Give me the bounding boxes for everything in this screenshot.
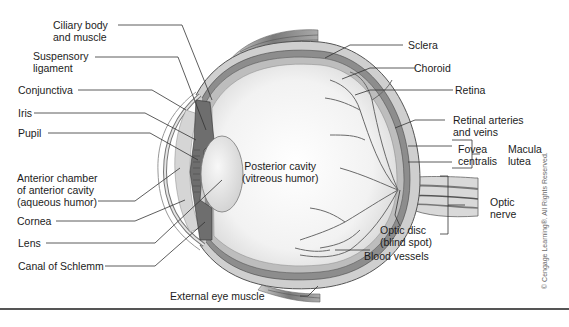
label-line: and veins xyxy=(453,126,524,138)
label-posterior-cavity: Posterior cavity (vitreous humor) xyxy=(242,160,318,184)
label-line: and muscle xyxy=(53,31,108,43)
label-line: Iris xyxy=(18,107,32,119)
label-retina: Retina xyxy=(455,84,485,96)
label-line: Lens xyxy=(18,237,41,249)
label-external-eye-muscle: External eye muscle xyxy=(170,290,265,302)
label-line: Conjunctiva xyxy=(18,84,73,96)
label-line: Fovea xyxy=(458,143,497,155)
copyright-notice: © Cengage Learning®. All Rights Reserved… xyxy=(541,152,548,289)
label-line: Sclera xyxy=(408,39,438,51)
label-line: Choroid xyxy=(414,62,451,74)
label-line: of anterior cavity xyxy=(17,184,98,196)
label-line: lutea xyxy=(508,155,542,167)
label-line: Blood vessels xyxy=(364,250,429,262)
label-cornea: Cornea xyxy=(17,215,51,227)
label-canal-of-schlemm: Canal of Schlemm xyxy=(18,260,104,272)
label-line: ligament xyxy=(33,62,88,74)
label-lens: Lens xyxy=(18,237,41,249)
label-anterior-chamber: Anterior chamber of anterior cavity (aqu… xyxy=(17,172,98,208)
label-choroid: Choroid xyxy=(414,62,451,74)
label-line: nerve xyxy=(490,208,516,220)
label-sclera: Sclera xyxy=(408,39,438,51)
label-line: Optic xyxy=(490,196,516,208)
label-line: Retinal arteries xyxy=(453,114,524,126)
label-ciliary-body: Ciliary body and muscle xyxy=(53,19,108,43)
bottom-divider xyxy=(0,308,569,310)
label-line: External eye muscle xyxy=(170,290,265,302)
label-line: Macula xyxy=(508,143,542,155)
label-line: (vitreous humor) xyxy=(242,172,318,184)
label-line: Cornea xyxy=(17,215,51,227)
label-optic-nerve: Optic nerve xyxy=(490,196,516,220)
label-conjunctiva: Conjunctiva xyxy=(18,84,73,96)
lens-shape xyxy=(201,136,243,212)
label-line: (aqueous humor) xyxy=(17,196,98,208)
label-pupil: Pupil xyxy=(18,127,41,139)
label-fovea-centralis: Fovea centralis xyxy=(458,143,497,167)
label-blood-vessels: Blood vessels xyxy=(364,250,429,262)
label-macula-lutea: Macula lutea xyxy=(508,143,542,167)
label-line: Ciliary body xyxy=(53,19,108,31)
label-line: Posterior cavity xyxy=(242,160,318,172)
label-iris: Iris xyxy=(18,107,32,119)
label-suspensory-ligament: Suspensory ligament xyxy=(33,50,88,74)
label-line: Optic disc xyxy=(380,224,432,236)
label-retinal-arteries: Retinal arteries and veins xyxy=(453,114,524,138)
label-line: (blind spot) xyxy=(380,236,432,248)
label-line: centralis xyxy=(458,155,497,167)
label-line: Retina xyxy=(455,84,485,96)
label-line: Pupil xyxy=(18,127,41,139)
label-line: Canal of Schlemm xyxy=(18,260,104,272)
label-optic-disc: Optic disc (blind spot) xyxy=(380,224,432,248)
label-line: Suspensory xyxy=(33,50,88,62)
label-line: Anterior chamber xyxy=(17,172,98,184)
